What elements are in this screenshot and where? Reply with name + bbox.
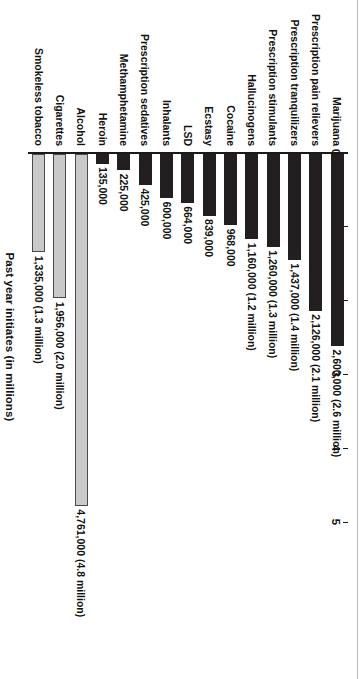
bar-row: Cigarettes1,956,000 (2.0 million)	[54, 152, 67, 297]
bar-value-label: 2,600,000 (2.6 million)	[331, 349, 343, 457]
bar-row: Prescription tranquilizers1,437,000 (1.4…	[288, 152, 301, 258]
bar-value-label: 2,126,000 (2.1 million)	[310, 314, 322, 422]
category-label: Prescription pain relievers	[310, 14, 322, 146]
category-label: LSD	[182, 125, 194, 146]
bar	[224, 154, 237, 226]
bar-row: Prescription sedatives425,000	[139, 152, 152, 183]
category-label: Inhalants	[161, 100, 173, 146]
plot-area: 012345Marijuana2,600,000 (2.6 million)Pr…	[28, 152, 348, 522]
category-label: Smokeless tobacco	[33, 48, 45, 146]
bar	[246, 154, 259, 240]
x-axis-tick	[343, 374, 348, 375]
bar	[267, 154, 280, 247]
category-label: Prescription sedatives	[139, 34, 151, 146]
category-label: Methamphetamine	[118, 54, 130, 146]
bar-value-label: 600,000	[161, 201, 173, 239]
bar-value-label: 839,000	[203, 219, 215, 257]
bar	[182, 154, 195, 203]
bar	[331, 154, 344, 346]
bar-row: LSD664,000	[182, 152, 195, 201]
bar-value-label: 1,437,000 (1.4 million)	[289, 263, 301, 371]
bar	[75, 154, 88, 506]
bar-value-label: 664,000	[182, 206, 194, 244]
bar-row: Smokeless tobacco1,335,000 (1.3 million)	[32, 152, 45, 251]
bar-value-label: 1,956,000 (2.0 million)	[54, 302, 66, 410]
bar-row: Hallucinogens1,160,000 (1.2 million)	[246, 152, 259, 238]
category-label: Cocaine	[225, 105, 237, 146]
bar-value-label: 4,761,000 (4.8 million)	[75, 509, 87, 617]
x-axis-tick-label: 5	[330, 519, 342, 525]
bar-row: Marijuana2,600,000 (2.6 million)	[331, 152, 344, 344]
bar	[203, 154, 216, 216]
x-axis-title: Past year initiates (in millions)	[4, 152, 16, 522]
bar-value-label: 135,000	[97, 167, 109, 205]
bar	[118, 154, 131, 171]
bar	[32, 154, 45, 253]
category-label: Prescription tranquilizers	[289, 19, 301, 146]
category-label: Heroin	[97, 113, 109, 146]
rotated-figure-wrapper: 012345Marijuana2,600,000 (2.6 million)Pr…	[0, 0, 364, 679]
bar	[96, 154, 109, 164]
category-label: Hallucinogens	[246, 74, 258, 146]
bar-row: Prescription pain relievers2,126,000 (2.…	[310, 152, 323, 309]
bar-chart-figure: 012345Marijuana2,600,000 (2.6 million)Pr…	[0, 0, 364, 679]
category-label: Alcohol	[75, 108, 87, 147]
bar-row: Inhalants600,000	[160, 152, 173, 196]
bar-value-label: 1,160,000 (1.2 million)	[246, 243, 258, 351]
bar-value-label: 968,000	[225, 229, 237, 267]
x-axis-tick	[343, 522, 348, 523]
bar-row: Ecstasy839,000	[203, 152, 216, 214]
bar-row: Heroin135,000	[96, 152, 109, 162]
bar	[288, 154, 301, 260]
bar-value-label: 1,260,000 (1.3 million)	[267, 250, 279, 358]
bar	[160, 154, 173, 198]
bar-value-label: 225,000	[118, 174, 130, 212]
chart-page: 012345Marijuana2,600,000 (2.6 million)Pr…	[0, 0, 364, 679]
bar	[310, 154, 323, 311]
bar	[139, 154, 152, 185]
category-label: Ecstasy	[203, 106, 215, 146]
bar-row: Methamphetamine225,000	[118, 152, 131, 169]
category-label: Cigarettes	[54, 95, 66, 146]
bar-value-label: 425,000	[139, 188, 151, 226]
bar-row: Prescription stimulants1,260,000 (1.3 mi…	[267, 152, 280, 245]
category-label: Marijuana	[331, 97, 343, 146]
bar-row: Cocaine968,000	[224, 152, 237, 224]
bar-value-label: 1,335,000 (1.3 million)	[33, 256, 45, 364]
bar-row: Alcohol4,761,000 (4.8 million)	[75, 152, 88, 504]
x-axis-tick	[343, 448, 348, 449]
bar	[54, 154, 67, 299]
category-label: Prescription stimulants	[267, 29, 279, 146]
